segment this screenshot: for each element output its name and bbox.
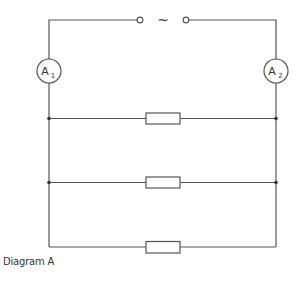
branch-3 (49, 242, 276, 254)
junction-dot (274, 117, 278, 121)
junction-dot (47, 181, 51, 185)
ammeter-a1-subscript: 1 (51, 72, 55, 80)
terminal-right-icon (183, 17, 189, 23)
terminal-left-icon (137, 17, 143, 23)
resistor-r1 (146, 113, 180, 124)
branch-1 (47, 113, 278, 124)
ammeter-a2-subscript: 2 (278, 72, 282, 80)
junction-dot (47, 117, 51, 121)
branch-2 (47, 177, 278, 188)
ammeter-a1: A 1 (37, 59, 61, 83)
circuit-diagram: ~ A 1 A 2 (0, 0, 298, 285)
ammeter-a1-letter: A (41, 65, 49, 78)
junction-dot (274, 181, 278, 185)
diagram-caption: Diagram A (3, 256, 54, 267)
ac-symbol-icon: ~ (157, 12, 169, 28)
resistor-r3 (146, 242, 180, 254)
ammeter-a2: A 2 (264, 59, 288, 83)
ac-source: ~ (137, 12, 189, 28)
ammeter-a2-letter: A (268, 65, 276, 78)
resistor-r2 (146, 177, 180, 188)
